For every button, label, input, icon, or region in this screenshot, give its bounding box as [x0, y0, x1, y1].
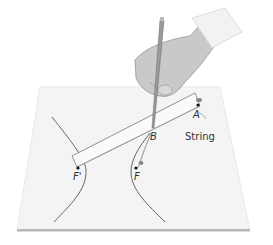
point-A	[196, 103, 199, 106]
label-string: String	[185, 132, 215, 142]
point-F	[134, 166, 137, 169]
label-F: F	[134, 172, 140, 182]
pin-A	[196, 98, 202, 102]
label-A: A	[193, 110, 200, 120]
label-F-prime: F'	[73, 172, 82, 182]
label-B: B	[150, 132, 157, 142]
pin-F	[139, 161, 144, 165]
hand	[135, 8, 242, 96]
illustration	[0, 0, 273, 245]
point-F-prime	[76, 166, 79, 169]
hyperbola-construction-figure: A B String F F'	[0, 0, 273, 245]
